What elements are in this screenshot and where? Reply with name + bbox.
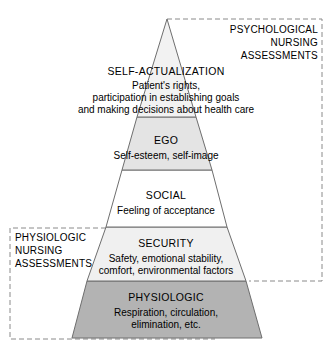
physiologic-assessments-label-line-1: PHYSIOLOGIC: [15, 232, 86, 243]
tier-desc-self-actualization-line-2: participation in establishing goals: [93, 92, 240, 103]
tier-desc-physiologic-line-1: Respiration, circulation,: [114, 307, 218, 318]
tier-title-self-actualization: SELF-ACTUALIZATION: [107, 65, 224, 77]
physiologic-assessments-label-line-2: NURSING: [15, 245, 63, 256]
tier-title-ego: EGO: [154, 134, 178, 146]
tier-title-social: SOCIAL: [146, 189, 186, 201]
psychological-assessments-label-line-1: PSYCHOLOGICAL: [230, 24, 318, 35]
tier-desc-self-actualization-line-1: Patient's rights,: [132, 80, 200, 91]
tier-desc-security-line-2: comfort, environmental factors: [99, 265, 234, 276]
nursing-hierarchy-diagram: SELF-ACTUALIZATION Patient's rights, par…: [0, 0, 331, 347]
tier-desc-self-actualization-line-3: and making decisions about health care: [78, 104, 255, 115]
pyramid-svg-canvas: SELF-ACTUALIZATION Patient's rights, par…: [0, 0, 331, 347]
psychological-assessments-label-line-3: ASSESSMENTS: [241, 50, 318, 61]
physiologic-assessments-label-line-3: ASSESSMENTS: [15, 258, 92, 269]
tier-title-physiologic: PHYSIOLOGIC: [128, 291, 204, 303]
tier-desc-social-line-1: Feeling of acceptance: [117, 205, 215, 216]
tier-desc-physiologic-line-2: elimination, etc.: [131, 319, 200, 330]
tier-desc-ego-line-1: Self-esteem, self-image: [113, 150, 218, 161]
psychological-assessments-label-line-2: NURSING: [270, 37, 318, 48]
tier-desc-security-line-1: Safety, emotional stability,: [109, 253, 224, 264]
tier-title-security: SECURITY: [138, 237, 194, 249]
